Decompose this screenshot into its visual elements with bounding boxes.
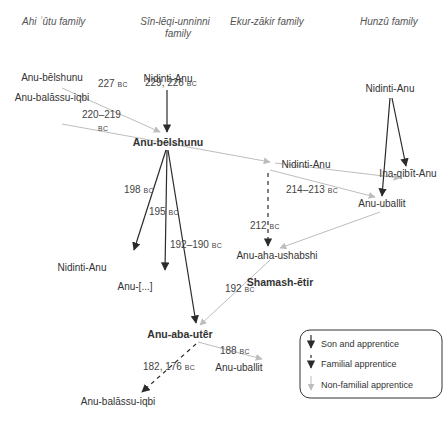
date-192-190: 192–190 BC (170, 239, 222, 250)
svg-text:BC: BC (98, 125, 108, 132)
svg-text:188 BC: 188 BC (220, 345, 250, 356)
svg-text:182, 176 BC: 182, 176 BC (143, 361, 195, 372)
legend-son-label: Son and apprentice (321, 339, 399, 349)
legend: Son and apprentice Familial apprentice N… (300, 330, 442, 398)
node-hunzu-nidinti-anu: Nidinti-Anu (366, 83, 415, 94)
node-ahi-anu-belshunu: Anu-bēlshunu (21, 72, 83, 83)
edge-anu-belshunu-to-anu-aba-uter (168, 150, 196, 323)
node-anu-uballit-low: Anu-uballit (215, 362, 262, 373)
node-ekur-nidinti-anu: Nidinti-Anu (282, 159, 331, 170)
node-anu-aba-uter: Anu-aba-utêr (147, 328, 212, 340)
date-188: 188 BC (220, 345, 250, 356)
node-ina-qibit-anu: Ina-qibīt-Anu (379, 168, 436, 179)
svg-text:192–190 BC: 192–190 BC (170, 239, 222, 250)
edge-anu-belshunu-to-nidinti-low (134, 150, 166, 250)
node-sin-anu-belshunu: Anu-bēlshunu (133, 136, 204, 148)
legend-nonfamilial-label: Non-familial apprentice (321, 380, 413, 390)
edge-anu-uballit-to-shamash (280, 212, 380, 248)
edge-hunzu-nidinti-to-ina-qibit (392, 98, 406, 166)
node-hunzu-anu-uballit: Anu-uballit (358, 198, 405, 209)
lineage-diagram: Ahi ʾûtu family Sîn-lēqi-unninni family … (0, 0, 448, 424)
svg-text:212 BC: 212 BC (250, 220, 280, 231)
header-sin-leqi-unninni-family-line2: family (165, 28, 192, 39)
svg-text:220–219: 220–219 (82, 109, 121, 120)
node-anu-aha-ushabshi: Anu-aha-ushabshi (236, 250, 317, 261)
svg-text:227 BC: 227 BC (98, 78, 128, 89)
header-ahi-utu-family: Ahi ʾûtu family (21, 16, 86, 27)
node-sin-anu-elided: Anu-[...] (117, 281, 152, 292)
svg-text:195 BC: 195 BC (149, 206, 179, 217)
header-sin-leqi-unninni-family: Sîn-lēqi-unninni (140, 16, 210, 27)
date-195: 195 BC (149, 206, 179, 217)
header-hunzu-family: Hunzû family (360, 16, 419, 27)
node-anu-balassu-iqbi-low: Anu-balāssu-iqbi (81, 396, 156, 407)
node-shamash-etir: Shamash-ētir (247, 276, 314, 288)
date-198: 198 BC (124, 184, 154, 195)
legend-familial-label: Familial apprentice (321, 359, 397, 369)
date-212: 212 BC (250, 220, 280, 231)
node-sin-nidinti-anu-low: Nidinti-Anu (58, 262, 107, 273)
edge-hunzu-nidinti-to-anu-uballit (382, 98, 390, 196)
date-227: 227 BC (98, 78, 128, 89)
node-ahi-anu-balassu-iqbi: Anu-balāssu-iqbi (15, 92, 90, 103)
date-182-176: 182, 176 BC (143, 361, 195, 372)
svg-text:198 BC: 198 BC (124, 184, 154, 195)
header-ekur-zakir-family: Ekur-zākir family (230, 16, 305, 27)
